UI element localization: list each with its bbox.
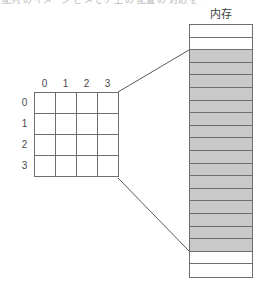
grid-cell	[77, 156, 98, 177]
grid-cell	[77, 135, 98, 156]
memory-cell-filled	[190, 50, 252, 63]
array-memory-layout-diagram: 配列 の イメージ と メモリ 上 の 配置 の 対応 を 示す 図 内存 0 …	[0, 0, 269, 288]
array-grid-body	[34, 92, 119, 177]
grid-row-header: 2	[18, 134, 31, 155]
memory-cell-filled	[190, 164, 252, 177]
memory-cell-filled	[190, 227, 252, 240]
memory-cell-filled	[190, 138, 252, 151]
memory-cell-filled	[190, 101, 252, 114]
memory-cell-empty	[190, 264, 252, 277]
grid-cell	[77, 114, 98, 135]
grid-row	[35, 93, 119, 114]
memory-cell-filled	[190, 126, 252, 139]
grid-cell	[98, 135, 119, 156]
grid-row	[35, 135, 119, 156]
grid-column-header: 0	[34, 78, 55, 90]
grid-cell	[56, 114, 77, 135]
grid-cell	[35, 114, 56, 135]
grid-cell	[98, 156, 119, 177]
grid-cell	[98, 93, 119, 114]
truncated-caption: 配列 の イメージ と メモリ 上 の 配置 の 対応 を 示す 図	[2, 0, 202, 6]
memory-cell-filled	[190, 239, 252, 252]
array-grid	[34, 92, 119, 177]
grid-row	[35, 156, 119, 177]
grid-column-headers: 0 1 2 3	[34, 78, 118, 90]
grid-column-header: 3	[97, 78, 118, 90]
memory-column	[189, 24, 253, 278]
memory-cell-filled	[190, 176, 252, 189]
grid-cell	[98, 114, 119, 135]
grid-cell	[56, 135, 77, 156]
grid-row	[35, 114, 119, 135]
memory-cell-filled	[190, 214, 252, 227]
memory-cell-filled	[190, 151, 252, 164]
grid-row-header: 3	[18, 155, 31, 176]
grid-cell	[77, 93, 98, 114]
connector-line-bottom	[118, 178, 189, 251]
grid-column-header: 2	[76, 78, 97, 90]
grid-column-header: 1	[55, 78, 76, 90]
connector-line-top	[118, 50, 189, 92]
memory-cell-filled	[190, 63, 252, 76]
grid-cell	[35, 135, 56, 156]
memory-cell-filled	[190, 113, 252, 126]
memory-label: 内存	[189, 8, 253, 21]
memory-cell-filled	[190, 88, 252, 101]
grid-cell	[35, 93, 56, 114]
grid-row-header: 0	[18, 92, 31, 113]
grid-cell	[35, 156, 56, 177]
memory-cell-filled	[190, 189, 252, 202]
grid-row-header: 1	[18, 113, 31, 134]
grid-cell	[56, 156, 77, 177]
memory-cell-empty	[190, 38, 252, 51]
grid-cell	[56, 93, 77, 114]
memory-cell-empty	[190, 252, 252, 265]
grid-row-headers: 0 1 2 3	[18, 92, 31, 176]
memory-cell-empty	[190, 25, 252, 38]
memory-cell-filled	[190, 201, 252, 214]
memory-cell-filled	[190, 75, 252, 88]
